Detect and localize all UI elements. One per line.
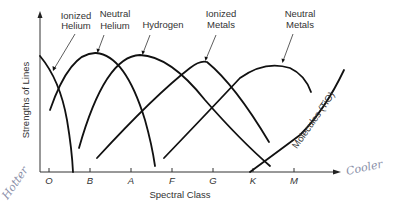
tick-label-g: G [209, 175, 216, 186]
tick-label-a: A [127, 175, 134, 186]
hotter-annotation: Hotter [0, 164, 31, 203]
label-ionized-metals-line2: Metals [207, 19, 235, 30]
label-neutral-helium-line1: Neutral [100, 8, 131, 19]
pointer-arrowheads [53, 49, 286, 72]
y-axis-label: Strengths of Lines [20, 61, 31, 138]
tick-label-f: F [169, 175, 176, 186]
tick-label-k: K [250, 175, 257, 186]
curve-ionized-helium [40, 56, 73, 172]
label-neutral-metals-line1: Neutral [285, 8, 316, 19]
curve-molecules-tio [250, 70, 344, 172]
tick-label-o: O [45, 175, 53, 186]
curves [40, 53, 344, 172]
x-axis-arrow-icon [333, 170, 341, 175]
spectral-line-strength-chart: O B A F G K M Spectral Class Strengths o… [0, 0, 393, 204]
pointer-lines [54, 34, 293, 69]
tick-label-b: B [87, 175, 94, 186]
x-tick-labels: O B A F G K M [45, 175, 298, 186]
x-ticks [49, 168, 294, 172]
y-axis-arrow-icon [38, 11, 43, 18]
label-ionized-metals-line1: Ionized [206, 8, 237, 19]
label-molecules-tio: Molecules (TiO) [290, 90, 337, 151]
tick-label-m: M [290, 175, 298, 186]
curve-hydrogen [79, 55, 270, 166]
label-neutral-metals-line2: Metals [286, 19, 314, 30]
label-neutral-helium-line2: Helium [100, 20, 130, 31]
cooler-annotation: Cooler [345, 157, 385, 178]
series-labels: Ionized Helium Neutral Helium Hydrogen I… [61, 8, 337, 150]
label-hydrogen: Hydrogen [142, 19, 183, 30]
label-ionized-helium-line2: Helium [61, 20, 91, 31]
x-axis-label: Spectral Class [149, 189, 210, 200]
